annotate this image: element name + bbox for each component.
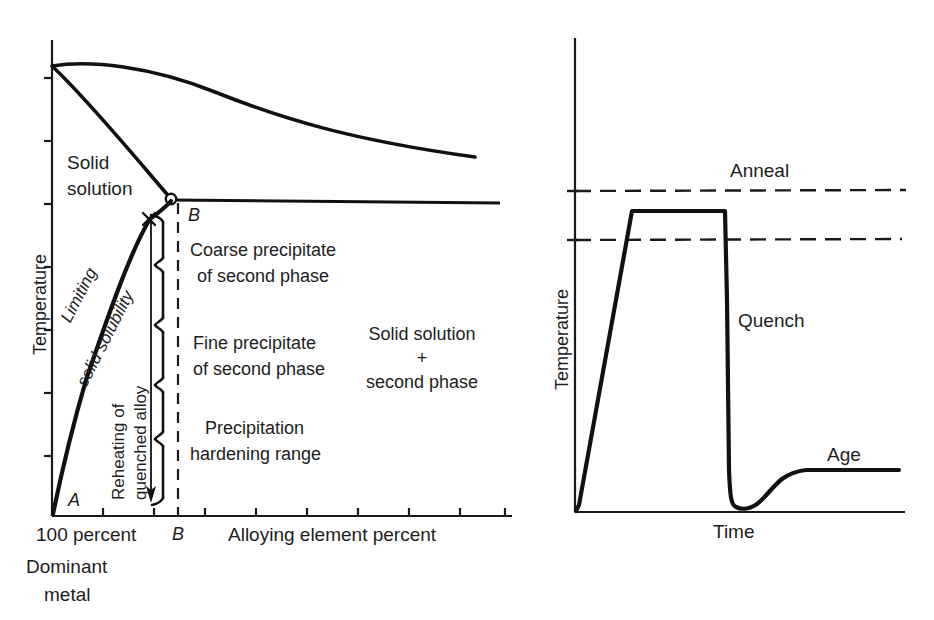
- region-label-fine-line1: Fine precipitate: [193, 333, 316, 354]
- region-label-two-phase-line1: Solid solution: [342, 324, 502, 345]
- region-label-solid-solution-line1: Solid: [67, 152, 109, 174]
- region-label-solid-solution-line2: solution: [67, 178, 133, 200]
- age-label: Age: [827, 444, 861, 466]
- eutectic-horizontal-line: [172, 200, 500, 203]
- region-label-precipitation-line2: hardening range: [190, 444, 321, 465]
- curve-label-reheating-line2: quenched alloy: [131, 386, 151, 500]
- precipitate-range-braces: [151, 215, 163, 505]
- x-origin-sub-line2: metal: [44, 584, 90, 606]
- liquidus-curve: [52, 64, 475, 157]
- region-label-two-phase-line3: second phase: [342, 372, 502, 393]
- region-label-coarse-line2: of second phase: [197, 266, 329, 287]
- right-heat-treatment-diagram: [567, 38, 906, 512]
- region-label-precipitation-line1: Precipitation: [205, 418, 304, 439]
- region-label-coarse-line1: Coarse precipitate: [190, 240, 336, 261]
- right-y-ticks: [567, 191, 579, 240]
- curve-label-reheating-line1: Reheating of: [109, 404, 129, 500]
- region-label-fine-line2: of second phase: [193, 359, 325, 380]
- quench-label: Quench: [738, 310, 805, 332]
- x-origin-sub-line1: Dominant: [26, 556, 107, 578]
- left-x-ticks: [103, 508, 505, 516]
- anneal-label: Anneal: [730, 160, 789, 182]
- point-b-curve-label: B: [188, 205, 200, 226]
- anneal-temperature-dashed-line: [575, 190, 906, 191]
- solvus-temperature-dashed-line: [575, 239, 902, 240]
- x-origin-label: 100 percent: [36, 524, 136, 546]
- point-a-label: A: [68, 490, 80, 511]
- right-x-axis-label: Time: [713, 521, 755, 543]
- right-y-axis-label: Temperature: [552, 289, 573, 390]
- region-label-two-phase-line2: +: [342, 348, 502, 369]
- left-y-axis-label: Temperature: [30, 254, 51, 355]
- left-x-axis-label: Alloying element percent: [228, 524, 436, 546]
- point-b-axis-label: B: [172, 524, 184, 545]
- figure-canvas: Temperature Solid solution B A Limiting …: [0, 0, 934, 620]
